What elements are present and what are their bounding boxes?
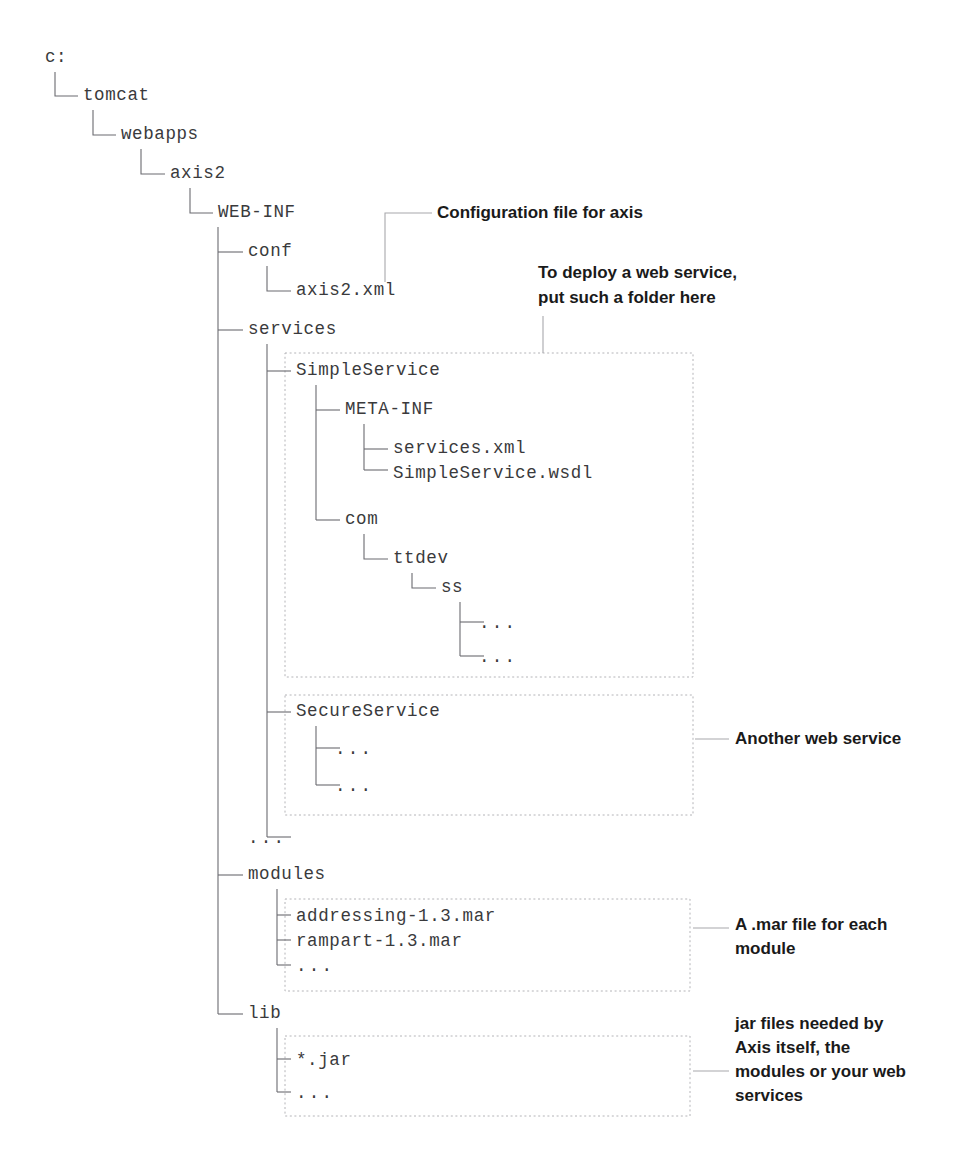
tree-node-lib-ellipsis: ... bbox=[296, 1083, 334, 1103]
tree-node-ss-ellipsis-2: ... bbox=[479, 647, 517, 667]
connector-conf-axis2xml bbox=[267, 266, 291, 291]
annotation-deploy-folder-line1: To deploy a web service, bbox=[538, 263, 737, 282]
annotation-deploy-folder-line2: put such a folder here bbox=[538, 288, 716, 307]
tree-node-lib[interactable]: lib bbox=[248, 1003, 281, 1023]
tree-node-modules[interactable]: modules bbox=[248, 864, 326, 884]
tree-node-secureservice-ellipsis-2: ... bbox=[335, 776, 373, 796]
annotation-config-file: Configuration file for axis bbox=[437, 203, 643, 222]
tree-node-axis2-xml[interactable]: axis2.xml bbox=[296, 280, 396, 300]
tree-node-com[interactable]: com bbox=[345, 509, 378, 529]
tree-node-addressing-mar[interactable]: addressing-1.3.mar bbox=[296, 906, 496, 926]
diagram-canvas: c: tomcat webapps axis2 WEB-INF conf axi… bbox=[0, 0, 967, 1151]
tree-node-axis2[interactable]: axis2 bbox=[170, 163, 226, 183]
annotation-jar-files-line3: modules or your web bbox=[735, 1062, 906, 1081]
connector-root-tomcat bbox=[55, 72, 78, 96]
annotation-jar-files-line4: services bbox=[735, 1086, 803, 1105]
annotation-mar-file-line1: A .mar file for each bbox=[735, 915, 887, 934]
tree-node-rampart-mar[interactable]: rampart-1.3.mar bbox=[296, 931, 463, 951]
tree-node-services-ellipsis: ... bbox=[248, 828, 286, 848]
tree-node-secureservice[interactable]: SecureService bbox=[296, 701, 440, 721]
connector-com-ttdev bbox=[364, 534, 388, 559]
tree-node-ss-ellipsis-1: ... bbox=[479, 613, 517, 633]
directory-tree-diagram: c: tomcat webapps axis2 WEB-INF conf axi… bbox=[0, 0, 967, 1151]
tree-node-meta-inf[interactable]: META-INF bbox=[345, 399, 434, 419]
annotation-jar-files-line1: jar files needed by bbox=[734, 1014, 884, 1033]
tree-node-simpleservice[interactable]: SimpleService bbox=[296, 360, 440, 380]
annotation-jar-files-line2: Axis itself, the bbox=[735, 1038, 850, 1057]
tree-node-ss[interactable]: ss bbox=[441, 577, 463, 597]
tree-node-services-xml[interactable]: services.xml bbox=[393, 438, 526, 458]
tree-node-root[interactable]: c: bbox=[45, 47, 67, 67]
box-lib bbox=[285, 1036, 690, 1116]
tree-node-modules-ellipsis: ... bbox=[296, 956, 334, 976]
tree-node-star-jar[interactable]: *.jar bbox=[296, 1050, 352, 1070]
connector-axis2-webinf bbox=[190, 188, 213, 213]
tree-node-web-inf[interactable]: WEB-INF bbox=[218, 202, 296, 222]
annotation-mar-file-line2: module bbox=[735, 939, 795, 958]
tree-node-secureservice-ellipsis-1: ... bbox=[335, 739, 373, 759]
annotation-another-service: Another web service bbox=[735, 729, 901, 748]
tree-node-tomcat[interactable]: tomcat bbox=[83, 85, 150, 105]
tree-node-services[interactable]: services bbox=[248, 319, 337, 339]
connector-webapps-axis2 bbox=[141, 149, 165, 174]
tree-node-ttdev[interactable]: ttdev bbox=[393, 548, 449, 568]
tree-node-conf[interactable]: conf bbox=[248, 241, 292, 261]
connector-ttdev-ss bbox=[412, 573, 436, 588]
leader-config-file bbox=[385, 213, 432, 282]
connector-tomcat-webapps bbox=[93, 110, 116, 135]
tree-node-webapps[interactable]: webapps bbox=[121, 124, 199, 144]
tree-node-simpleservice-wsdl[interactable]: SimpleService.wsdl bbox=[393, 463, 593, 483]
